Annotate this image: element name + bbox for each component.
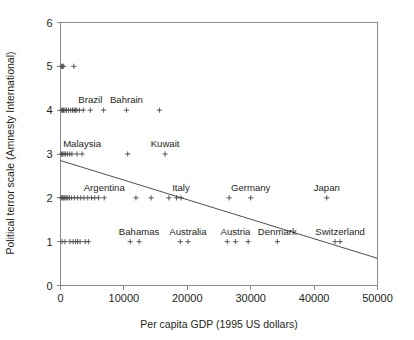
plot-canvas: 01000020000300004000050000 0123456 Brazi… (0, 0, 414, 340)
data-point (137, 239, 142, 244)
y-tick-label: 6 (46, 17, 52, 29)
point-label: Malaysia (63, 138, 102, 149)
data-point (248, 195, 253, 200)
data-point (149, 195, 154, 200)
data-point (185, 239, 190, 244)
data-point (246, 239, 251, 244)
x-tick-label: 30000 (235, 292, 266, 304)
point-label: Denmark (258, 226, 297, 237)
point-label: Brazil (78, 94, 102, 105)
y-tick-label: 4 (46, 104, 52, 116)
y-tick-label: 2 (46, 192, 52, 204)
point-labels: BrazilBahrainMalaysiaKuwaitArgentinaItal… (63, 94, 365, 237)
data-point (324, 195, 329, 200)
data-point (178, 239, 183, 244)
plot-frame (61, 23, 378, 286)
point-label: Germany (231, 182, 271, 193)
data-point (74, 151, 79, 156)
y-tick-label: 3 (46, 148, 52, 160)
data-point (332, 239, 337, 244)
y-axis-label: Political terror scale (Amnesty Internat… (4, 51, 16, 254)
data-markers (59, 64, 343, 245)
data-point (79, 151, 84, 156)
data-point (128, 239, 133, 244)
data-point (102, 195, 107, 200)
point-label: Switzerland (315, 226, 365, 237)
point-label: Argentina (84, 182, 126, 193)
x-axis-label: Per capita GDP (1995 US dollars) (140, 318, 297, 330)
data-point (78, 239, 83, 244)
point-label: Italy (172, 182, 190, 193)
point-label: Kuwait (151, 138, 180, 149)
x-tick-label: 20000 (172, 292, 203, 304)
data-point (96, 195, 101, 200)
point-label: Japan (314, 182, 340, 193)
data-point (101, 108, 106, 113)
point-label: Austria (221, 226, 252, 237)
data-point (227, 195, 232, 200)
data-point (86, 239, 91, 244)
data-point (225, 239, 230, 244)
x-tick-label: 40000 (299, 292, 330, 304)
regression-line (61, 161, 378, 259)
x-axis-ticks: 01000020000300004000050000 (57, 286, 392, 304)
point-label: Bahrain (110, 94, 143, 105)
point-label: Australia (169, 226, 207, 237)
data-point (157, 108, 162, 113)
scatter-plot-figure: 01000020000300004000050000 0123456 Brazi… (0, 0, 414, 340)
x-tick-label: 10000 (109, 292, 140, 304)
data-point (125, 151, 130, 156)
data-point (62, 239, 67, 244)
data-point (166, 195, 171, 200)
data-point (337, 239, 342, 244)
y-tick-label: 5 (46, 60, 52, 72)
plot-border (61, 23, 378, 286)
data-point (133, 195, 138, 200)
data-point (163, 151, 168, 156)
y-tick-label: 1 (46, 236, 52, 248)
y-axis-ticks: 0123456 (46, 17, 60, 292)
point-label: Bahamas (119, 226, 160, 237)
data-point (275, 239, 280, 244)
data-point (233, 239, 238, 244)
trend-line (61, 161, 378, 259)
data-point (71, 64, 76, 69)
data-point (88, 108, 93, 113)
y-tick-label: 0 (46, 280, 52, 292)
data-point (124, 108, 129, 113)
data-point (81, 108, 86, 113)
x-tick-label: 0 (57, 292, 63, 304)
x-tick-label: 50000 (362, 292, 393, 304)
